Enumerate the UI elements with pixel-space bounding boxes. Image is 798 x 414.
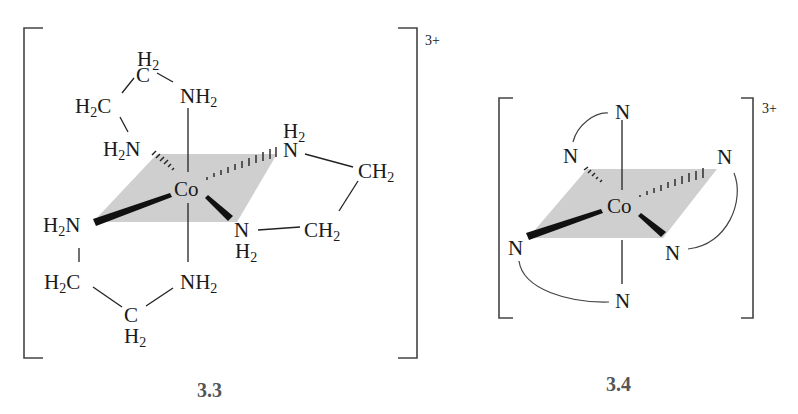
chelate-arc-bottom: [519, 261, 609, 302]
atom-n-lower-right: N: [665, 241, 680, 265]
right-bracket: [741, 98, 753, 318]
atom-n-bottom: N: [615, 289, 630, 313]
atom-bottom-left-c: H2C: [44, 270, 80, 296]
right-bracket: [398, 28, 417, 358]
svg-text:H2: H2: [124, 324, 146, 350]
atom-top-c: C: [136, 63, 150, 87]
structure-label: 3.4: [606, 373, 631, 395]
atom-right-lower-ch2: CH2: [304, 218, 340, 244]
left-bracket: [24, 28, 43, 358]
charge-label: 3+: [425, 33, 440, 48]
structure-3-4: 3+ Co N N N: [499, 98, 777, 395]
atom-bottom-nh2: NH2: [180, 270, 217, 296]
atom-n-lower-left: N: [508, 236, 523, 260]
charge-label: 3+: [762, 101, 777, 116]
atom-top-left-c: H2C: [75, 94, 111, 120]
coordination-complex-figure: 3+ Co: [0, 0, 798, 414]
metal-atom: Co: [174, 177, 199, 201]
atom-top-nh2: NH2: [180, 84, 217, 110]
atom-upper-left-n: H2N: [103, 137, 140, 163]
atom-n-top: N: [615, 100, 630, 124]
chelate-arc-top: [573, 113, 608, 142]
structure-3-3: 3+ Co: [24, 28, 440, 401]
en-ring-right: H2 N CH2 N H2 CH2: [234, 119, 394, 265]
svg-text:H2: H2: [235, 239, 257, 265]
atom-right-upper-ch2: CH2: [358, 159, 394, 185]
atom-n-upper-right: N: [717, 145, 732, 169]
atom-upper-right-n: N: [283, 138, 298, 162]
metal-atom: Co: [607, 194, 632, 218]
atom-n-upper-left: N: [563, 144, 578, 168]
left-bracket: [499, 98, 513, 318]
en-ring-top: H2 C H2C NH2 H2N: [75, 47, 217, 163]
en-ring-bottom: H2N H2C NH2 C H2: [43, 213, 217, 350]
structure-label: 3.3: [197, 379, 222, 401]
atom-left-n: H2N: [43, 213, 80, 239]
